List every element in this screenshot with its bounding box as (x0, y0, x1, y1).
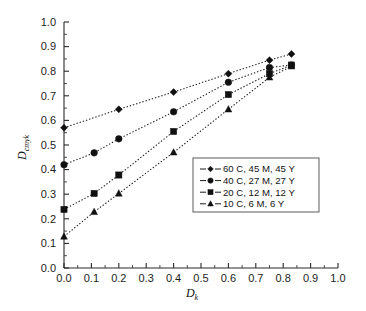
marker-square (91, 190, 97, 196)
x-axis-title-base: D (185, 286, 195, 300)
y-axis-tick-label: 0.6 (41, 114, 56, 126)
marker-circle (208, 178, 213, 183)
legend-label: 40 C, 27 M, 27 Y (223, 175, 295, 186)
marker-square (61, 206, 67, 212)
x-axis-tick-label: 0.0 (56, 272, 71, 284)
x-axis-tick-label: 0.8 (276, 272, 291, 284)
chart-legend: 60 C, 45 M, 45 Y40 C, 27 M, 27 Y20 C, 12… (193, 158, 319, 212)
x-axis-title-subscript: k (195, 293, 199, 302)
y-axis-tick-label: 0.7 (41, 90, 56, 102)
x-axis-tick-label: 0.5 (193, 272, 208, 284)
marker-circle (61, 161, 68, 168)
legend-label: 20 C, 12 M, 12 Y (223, 187, 295, 198)
y-axis-tick-label: 0.3 (41, 188, 56, 200)
y-axis-title-base: D (15, 151, 29, 161)
x-axis-tick-label: 0.2 (111, 272, 126, 284)
y-axis-tick-label: 0.2 (41, 213, 56, 225)
marker-square (208, 190, 213, 195)
x-axis-tick-label: 0.6 (221, 272, 236, 284)
marker-square (225, 91, 231, 97)
y-axis-tick-label: 0.4 (41, 163, 56, 175)
x-axis-tick-label: 0.3 (139, 272, 154, 284)
marker-circle (91, 150, 98, 157)
legend-label: 60 C, 45 M, 45 Y (223, 163, 295, 174)
y-axis-title-subscript: cmyk (22, 134, 31, 151)
x-axis-tick-label: 0.4 (166, 272, 181, 284)
y-axis-tick-label: 0.9 (41, 40, 56, 52)
marker-circle (266, 64, 273, 71)
x-axis-tick-label: 0.1 (84, 272, 99, 284)
chart-figure: 0.00.10.20.30.40.50.60.70.80.91.0 0.00.1… (0, 0, 366, 311)
marker-circle (116, 136, 123, 143)
x-axis-tick-label: 1.0 (330, 272, 345, 284)
marker-square (171, 128, 177, 134)
y-axis-tick-label: 0.5 (41, 139, 56, 151)
marker-circle (170, 108, 177, 115)
x-axis-tick-label: 0.7 (248, 272, 263, 284)
legend-label: 10 C, 6 M, 6 Y (223, 198, 285, 209)
marker-square (116, 172, 122, 178)
y-axis-tick-label: 0.8 (41, 65, 56, 77)
x-axis-tick-label: 0.9 (303, 272, 318, 284)
y-axis-tick-label: 1.0 (41, 16, 56, 28)
y-axis-tick-label: 0.1 (41, 237, 56, 249)
chart-canvas: 0.00.10.20.30.40.50.60.70.80.91.0 0.00.1… (0, 0, 366, 311)
marker-circle (225, 79, 232, 86)
y-axis-tick-label: 0.0 (41, 262, 56, 274)
